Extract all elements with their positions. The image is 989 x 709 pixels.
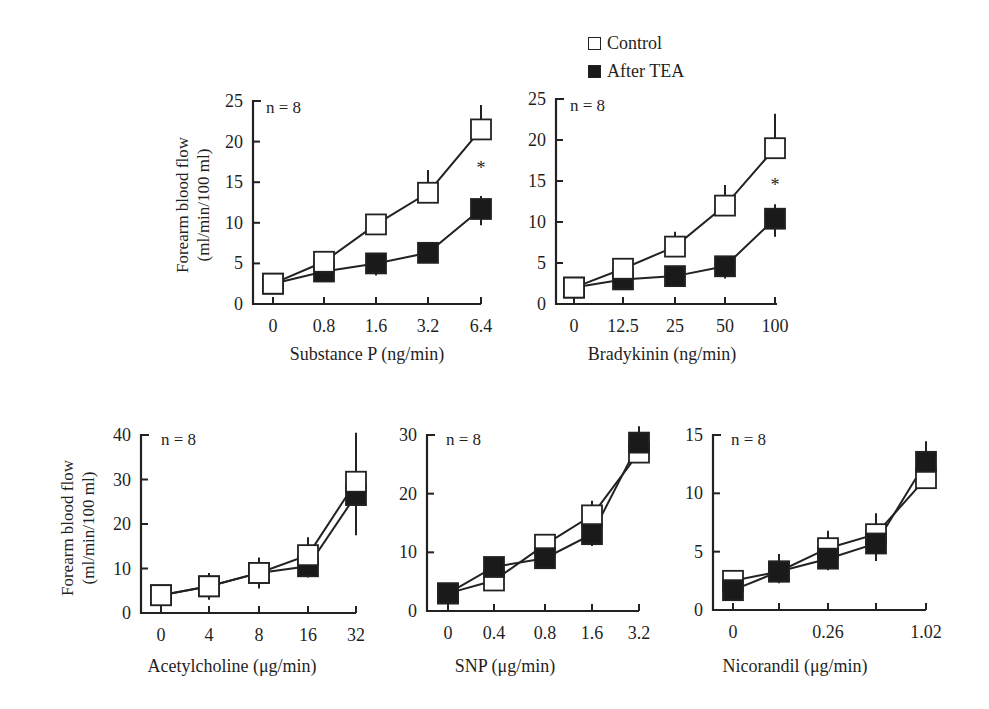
x-axis-label: Acetylcholine (μg/min) (147, 656, 316, 677)
series-line-after-tea (448, 443, 639, 594)
x-tick-label: 1.6 (365, 316, 388, 337)
open-square-marker (582, 505, 602, 525)
series-line-control (448, 453, 639, 594)
x-tick-label: 0.4 (483, 623, 506, 644)
y-tick-label: 5 (537, 253, 546, 274)
x-tick-label: 0 (729, 622, 738, 643)
y-tick-label: 0 (694, 600, 703, 621)
x-tick-label: 3.2 (628, 623, 651, 644)
x-tick-label: 100 (762, 316, 789, 337)
y-tick-label: 20 (399, 483, 417, 504)
open-square-marker (366, 214, 386, 234)
y-tick-label: 20 (225, 131, 243, 152)
y-axis-label-top: Forearm blood flow (ml/min/100 ml) (172, 137, 214, 273)
filled-square-marker (916, 452, 936, 472)
y-axis-label-bottom: Forearm blood flow (ml/min/100 ml) (57, 460, 99, 596)
y-tick-label: 15 (528, 171, 546, 192)
x-axis-label: SNP (μg/min) (455, 656, 556, 677)
axes (713, 435, 926, 610)
sample-size-annotation: n = 8 (161, 430, 196, 450)
legend-item-after-tea: After TEA (588, 61, 684, 82)
open-square-marker (665, 237, 685, 257)
open-square-icon (588, 37, 601, 50)
x-tick-label: 50 (716, 316, 734, 337)
x-tick-label: 1.6 (581, 623, 604, 644)
open-square-marker (765, 138, 785, 158)
filled-square-marker (723, 580, 743, 600)
chart-panel-5 (713, 435, 936, 610)
sample-size-annotation: n = 8 (446, 430, 481, 450)
x-tick-label: 12.5 (607, 316, 639, 337)
axes (141, 435, 356, 613)
y-tick-label: 20 (113, 514, 131, 535)
y-tick-label: 5 (234, 253, 243, 274)
filled-square-marker (818, 549, 838, 569)
x-tick-label: 0 (269, 316, 278, 337)
x-tick-label: 0 (570, 316, 579, 337)
y-tick-label: 5 (694, 541, 703, 562)
x-axis-label: Nicorandil (μg/min) (722, 656, 867, 677)
y-axis-label-line1: Forearm blood flow (172, 137, 193, 273)
filled-square-marker (366, 253, 386, 273)
y-axis-label-line2: (ml/min/100 ml) (78, 460, 99, 596)
y-tick-label: 25 (528, 89, 546, 110)
x-tick-label: 0 (444, 623, 453, 644)
chart-panel-1 (253, 101, 491, 304)
open-square-marker (346, 472, 366, 492)
chart-panel-4 (427, 426, 649, 611)
y-tick-label: 10 (113, 558, 131, 579)
y-tick-label: 10 (225, 212, 243, 233)
y-tick-label: 15 (225, 172, 243, 193)
filled-square-marker (769, 562, 789, 582)
legend-item-control: Control (588, 33, 662, 54)
x-tick-label: 6.4 (470, 316, 493, 337)
filled-square-marker (484, 557, 504, 577)
filled-square-marker (471, 199, 491, 219)
chart-panel-2 (556, 99, 785, 304)
y-axis-label-line2: (ml/min/100 ml) (193, 137, 214, 273)
y-tick-label: 0 (234, 294, 243, 315)
filled-square-marker (665, 266, 685, 286)
sample-size-annotation: n = 8 (570, 96, 605, 116)
y-tick-label: 10 (685, 483, 703, 504)
y-tick-label: 10 (399, 542, 417, 563)
y-axis-label-line1: Forearm blood flow (57, 460, 78, 596)
x-tick-label: 8 (255, 625, 264, 646)
x-tick-label: 3.2 (417, 316, 440, 337)
x-tick-label: 1.02 (910, 622, 942, 643)
x-axis-label: Bradykinin (ng/min) (588, 344, 736, 365)
x-tick-label: 4 (205, 625, 214, 646)
filled-square-marker (765, 209, 785, 229)
y-tick-label: 30 (113, 469, 131, 490)
y-tick-label: 30 (399, 425, 417, 446)
y-tick-label: 20 (528, 130, 546, 151)
filled-square-marker (715, 256, 735, 276)
open-square-marker (613, 259, 633, 279)
open-square-marker (314, 252, 334, 272)
chart-panel-3 (141, 433, 366, 613)
y-tick-label: 0 (122, 603, 131, 624)
filled-square-marker (866, 534, 886, 554)
x-tick-label: 0 (157, 625, 166, 646)
significance-asterisk: * (771, 174, 780, 195)
y-tick-label: 0 (537, 294, 546, 315)
open-square-marker (263, 274, 283, 294)
x-tick-label: 16 (299, 625, 317, 646)
significance-asterisk: * (477, 158, 486, 179)
sample-size-annotation: n = 8 (731, 430, 766, 450)
open-square-marker (715, 196, 735, 216)
series-line-after-tea (733, 462, 926, 590)
y-tick-label: 15 (685, 425, 703, 446)
y-tick-label: 0 (408, 601, 417, 622)
filled-square-marker (438, 583, 458, 603)
open-square-marker (151, 585, 171, 605)
open-square-marker (249, 563, 269, 583)
open-square-marker (199, 576, 219, 596)
sample-size-annotation: n = 8 (266, 98, 301, 118)
open-square-marker (564, 278, 584, 298)
filled-square-marker (418, 243, 438, 263)
x-tick-label: 0.8 (534, 623, 557, 644)
y-tick-label: 40 (113, 425, 131, 446)
filled-square-icon (588, 65, 601, 78)
legend-label: After TEA (607, 61, 684, 81)
